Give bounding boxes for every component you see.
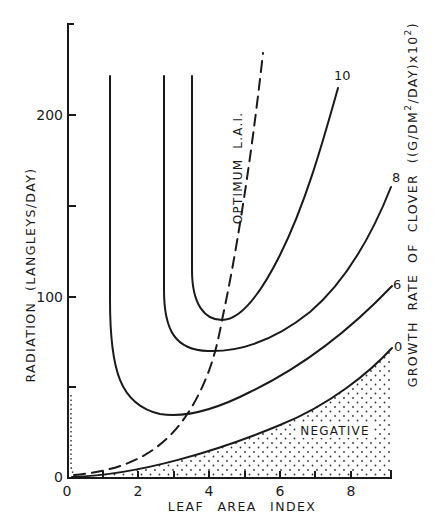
x-tick-6: 6	[276, 483, 285, 499]
y-tick-100: 100	[36, 289, 63, 305]
negative-region	[72, 348, 392, 477]
x-tick-0: 0	[63, 483, 72, 499]
x-tick-4: 4	[205, 483, 214, 499]
x-axis-title: LEAF AREA INDEX	[168, 499, 316, 514]
right-axis-title: GROWTH RATE OF CLOVER ((G/DM2/DAY)x102)	[403, 6, 420, 414]
negative-region-origin	[71, 395, 78, 476]
y-axis	[68, 24, 76, 478]
curve-8	[164, 76, 391, 351]
curve-label-0: 0	[394, 339, 402, 354]
curve-6	[110, 76, 392, 415]
x-tick-8: 8	[347, 483, 356, 499]
growth-rate-chart: 200 100 0 0 2 4 6 8 LEAF AREA INDEX RADI…	[0, 0, 441, 525]
curve-label-10: 10	[334, 68, 351, 83]
x-tick-2: 2	[134, 483, 143, 499]
optimum-lai-label: OPTIMUM L.A.I.	[231, 112, 245, 224]
y-axis-title: RADIATION (LANGLEYS/DAY)	[23, 168, 38, 383]
curve-10	[192, 76, 338, 320]
y-tick-200: 200	[36, 107, 63, 123]
negative-label: NEGATIVE	[300, 424, 369, 438]
curve-label-8: 8	[392, 170, 400, 185]
curve-label-6: 6	[393, 277, 401, 292]
